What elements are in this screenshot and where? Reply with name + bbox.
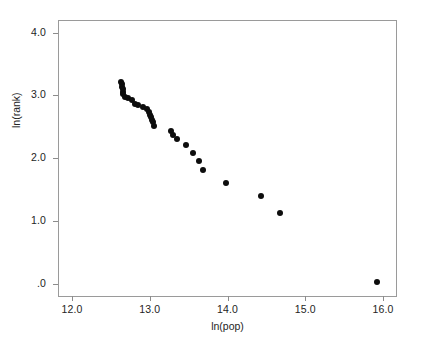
y-tick-mark [53, 284, 58, 285]
x-tick-label: 16.0 [353, 303, 413, 315]
y-tick-label: 1.0 [0, 214, 46, 226]
x-axis-label: ln(pop) [58, 320, 397, 332]
y-tick-label: .0 [0, 277, 46, 289]
y-tick-mark [53, 95, 58, 96]
scatter-plot-figure: 12.013.014.015.016.0 .01.02.03.04.0 ln(p… [0, 0, 421, 346]
x-tick-label: 15.0 [275, 303, 335, 315]
y-tick-label: 2.0 [0, 151, 46, 163]
x-tick-mark [72, 296, 73, 301]
y-tick-label: 4.0 [0, 26, 46, 38]
x-tick-label: 13.0 [120, 303, 180, 315]
y-axis-label: ln(rank) [10, 92, 22, 128]
y-tick-mark [53, 33, 58, 34]
x-tick-mark [383, 296, 384, 301]
x-tick-label: 12.0 [42, 303, 102, 315]
x-tick-mark [150, 296, 151, 301]
y-tick-label: 3.0 [0, 88, 46, 100]
x-tick-label: 14.0 [198, 303, 258, 315]
y-tick-mark [53, 158, 58, 159]
x-tick-mark [228, 296, 229, 301]
plot-area-frame [58, 20, 397, 297]
x-tick-mark [305, 296, 306, 301]
y-tick-mark [53, 221, 58, 222]
